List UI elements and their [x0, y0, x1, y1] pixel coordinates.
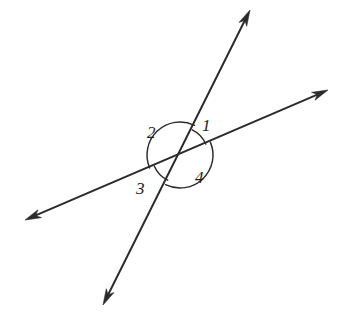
lines-group: [25, 10, 328, 305]
angle-label-3: 3: [136, 180, 145, 197]
angle-label-4: 4: [195, 169, 204, 186]
steep-line-arrowhead-end: [239, 10, 250, 26]
steep-line: [108, 20, 245, 295]
angle-label-1: 1: [202, 117, 211, 134]
shallow-line: [35, 94, 318, 215]
steep-line-arrowhead-start: [103, 289, 114, 305]
geometry-canvas: [0, 0, 339, 332]
angle-label-2: 2: [147, 124, 156, 141]
geometry-figure: 1 2 3 4: [0, 0, 339, 332]
